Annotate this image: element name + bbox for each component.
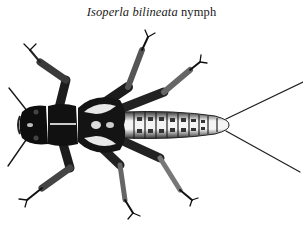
cerci xyxy=(226,82,303,172)
stonefly-nymph-illustration xyxy=(0,0,303,231)
thorax xyxy=(48,97,125,152)
abdomen xyxy=(122,112,229,140)
head xyxy=(18,106,48,145)
